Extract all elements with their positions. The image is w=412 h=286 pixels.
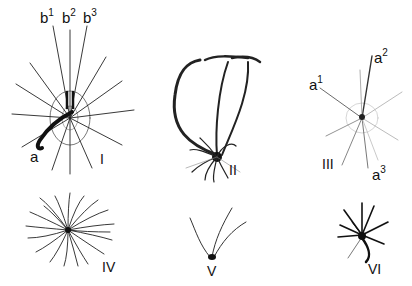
panel-IV-label: IV bbox=[102, 260, 115, 274]
figure: b1 b2 b3 a I II a1 a2 a3 III IV V VI bbox=[0, 0, 412, 286]
panel-III-label: III bbox=[322, 157, 334, 171]
panel-V-drawing bbox=[190, 208, 246, 260]
annotation-a3: a3 bbox=[372, 167, 386, 182]
panel-IV-drawing bbox=[26, 193, 114, 266]
panel-II-drawing bbox=[174, 56, 260, 182]
annotation-a: a bbox=[30, 149, 38, 164]
annotation-b2: b2 bbox=[62, 10, 76, 25]
panel-I-label: I bbox=[100, 152, 104, 166]
panel-VI-drawing bbox=[338, 203, 388, 262]
panel-VI-label: VI bbox=[368, 262, 381, 276]
panel-II-label: II bbox=[229, 163, 237, 177]
annotation-b3: b3 bbox=[83, 10, 97, 25]
annotation-b1: b1 bbox=[40, 10, 54, 25]
figure-drawing bbox=[0, 0, 412, 286]
panel-III-drawing bbox=[320, 56, 402, 168]
annotation-a1: a1 bbox=[309, 77, 323, 92]
panel-V-label: V bbox=[207, 264, 216, 278]
annotation-a2: a2 bbox=[374, 50, 388, 65]
